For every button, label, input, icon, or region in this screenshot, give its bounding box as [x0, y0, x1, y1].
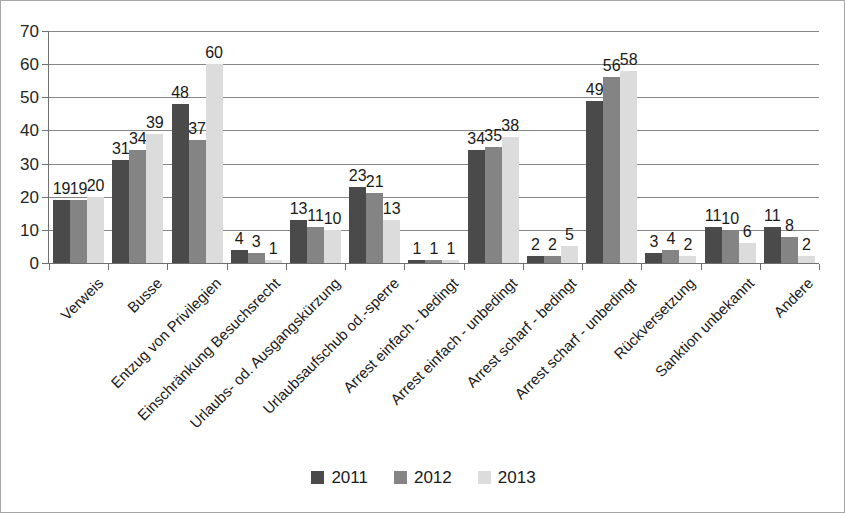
bar[interactable]: [129, 150, 146, 263]
bar[interactable]: [146, 134, 163, 263]
bar-value-label: 21: [366, 174, 384, 190]
plot-area: 1919203134394837604311311102321131113435…: [49, 31, 819, 263]
bar[interactable]: [620, 71, 637, 263]
bar[interactable]: [425, 260, 442, 263]
bar[interactable]: [645, 253, 662, 263]
legend-item-2011[interactable]: 2011: [311, 469, 368, 486]
x-axis-category-label: Arrest scharf - bedingt: [464, 275, 579, 390]
bar-value-label: 35: [484, 128, 502, 144]
bar-group: 232113: [345, 31, 404, 263]
y-axis-labels: 010203040506070: [1, 1, 39, 513]
bar[interactable]: [324, 230, 341, 263]
bar-value-label: 31: [112, 141, 130, 157]
legend-swatch-icon: [311, 471, 324, 484]
y-axis-tick-label: 30: [3, 155, 39, 172]
bar[interactable]: [527, 256, 544, 263]
bar[interactable]: [408, 260, 425, 263]
bar-value-label: 10: [324, 211, 342, 227]
y-axis-tick-label: 50: [3, 89, 39, 106]
bar[interactable]: [290, 220, 307, 263]
bar-group: 191920: [49, 31, 108, 263]
bar-group: 431: [227, 31, 286, 263]
bar[interactable]: [248, 253, 265, 263]
x-axis-tick-mark: [49, 264, 50, 270]
bar[interactable]: [739, 243, 756, 263]
bar[interactable]: [70, 200, 87, 263]
bar-value-label: 58: [620, 52, 638, 68]
x-axis-category-label: Entzug von Privilegien: [108, 275, 224, 391]
x-axis-tick-mark: [819, 264, 820, 270]
bar[interactable]: [87, 197, 104, 263]
x-axis-category-label: Andere: [771, 275, 816, 320]
bar[interactable]: [468, 150, 485, 263]
bar-value-label: 48: [171, 85, 189, 101]
bar[interactable]: [705, 227, 722, 263]
bar-value-label: 4: [666, 231, 675, 247]
bar-value-label: 38: [501, 118, 519, 134]
bar-group: 11106: [701, 31, 760, 263]
legend-item-2013[interactable]: 2013: [478, 469, 536, 486]
x-axis-tick-mark: [582, 264, 583, 270]
bar[interactable]: [781, 237, 798, 264]
bar[interactable]: [53, 200, 70, 263]
x-axis-category-label: Arrest einfach - bedingt: [340, 275, 460, 395]
bar-group: 131110: [286, 31, 345, 263]
bar[interactable]: [764, 227, 781, 263]
bar[interactable]: [502, 137, 519, 263]
bar[interactable]: [662, 250, 679, 263]
bar[interactable]: [603, 77, 620, 263]
bar-group: 313439: [108, 31, 167, 263]
bar-value-label: 23: [349, 168, 367, 184]
bar-group: 111: [404, 31, 463, 263]
bar[interactable]: [189, 140, 206, 263]
bar[interactable]: [679, 256, 696, 263]
bar[interactable]: [349, 187, 366, 263]
bar[interactable]: [112, 160, 129, 263]
bar-group: 483760: [167, 31, 226, 263]
bar[interactable]: [442, 260, 459, 263]
bar[interactable]: [265, 260, 282, 263]
legend-item-2012[interactable]: 2012: [394, 469, 452, 486]
bar[interactable]: [544, 256, 561, 263]
bar-value-label: 39: [146, 115, 164, 131]
bar-value-label: 56: [603, 58, 621, 74]
bar[interactable]: [485, 147, 502, 263]
legend-swatch-icon: [478, 471, 491, 484]
x-axis-tick-mark: [108, 264, 109, 270]
y-axis-tick-mark: [42, 97, 48, 98]
x-axis-category-label: Arrest scharf - unbedingt: [512, 275, 639, 402]
bar-value-label: 13: [290, 201, 308, 217]
x-axis-tick-mark: [760, 264, 761, 270]
bar-value-label: 4: [235, 231, 244, 247]
bar-group: 495658: [582, 31, 641, 263]
bar-value-label: 2: [531, 237, 540, 253]
bar-group: 225: [523, 31, 582, 263]
bar[interactable]: [307, 227, 324, 263]
bar[interactable]: [586, 101, 603, 263]
bar-group: 343538: [464, 31, 523, 263]
bar-value-label: 3: [649, 234, 658, 250]
bar[interactable]: [172, 104, 189, 263]
bar-value-label: 11: [307, 208, 324, 224]
bar-group: 342: [641, 31, 700, 263]
bar[interactable]: [798, 256, 815, 263]
y-axis-tick-mark: [42, 64, 48, 65]
bar[interactable]: [206, 64, 223, 263]
bar[interactable]: [383, 220, 400, 263]
y-axis-tick-label: 70: [3, 23, 39, 40]
bar-value-label: 37: [188, 121, 206, 137]
bar[interactable]: [231, 250, 248, 263]
bar[interactable]: [561, 246, 578, 263]
bar[interactable]: [366, 193, 383, 263]
y-axis-tick-mark: [42, 197, 48, 198]
bar-value-label: 34: [129, 131, 147, 147]
gridline: [49, 263, 819, 264]
x-axis-tick-mark: [701, 264, 702, 270]
bar-value-label: 1: [269, 241, 278, 257]
x-axis-tick-mark: [227, 264, 228, 270]
bar-value-label: 34: [467, 131, 485, 147]
x-axis-tick-mark: [404, 264, 405, 270]
bar-value-label: 19: [53, 181, 71, 197]
bar-value-label: 10: [721, 211, 739, 227]
bar[interactable]: [722, 230, 739, 263]
